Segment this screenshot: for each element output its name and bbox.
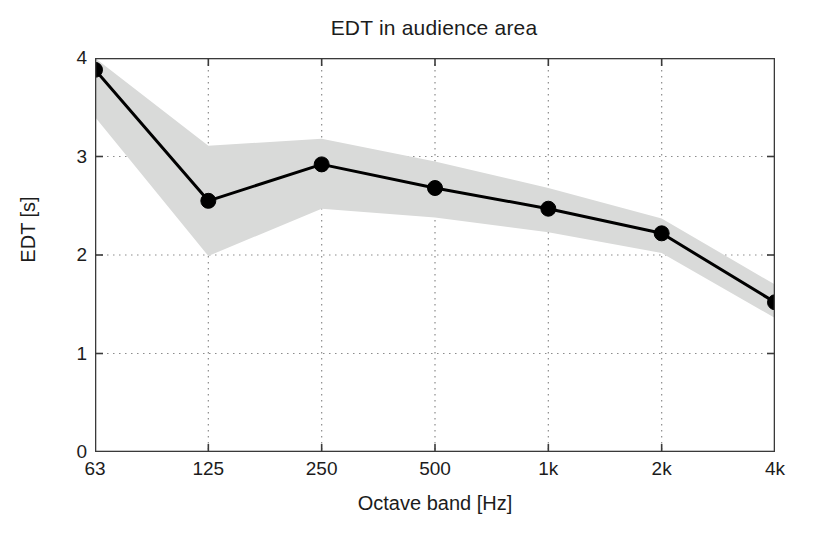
chart-title: EDT in audience area — [0, 16, 818, 40]
data-point-marker — [428, 181, 443, 196]
x-tick-label: 250 — [306, 458, 338, 480]
x-axis-tick-labels: 631252505001k2k4k — [95, 458, 775, 484]
y-tick-label: 2 — [76, 244, 87, 266]
x-tick-label: 4k — [765, 458, 785, 480]
data-point-marker — [541, 201, 556, 216]
y-tick-label: 1 — [76, 343, 87, 365]
y-axis-label: EDT [s] — [17, 140, 40, 320]
plot-area — [95, 58, 775, 452]
data-point-marker — [314, 157, 329, 172]
y-axis-tick-labels: 01234 — [55, 58, 87, 452]
data-point-marker — [654, 226, 669, 241]
x-tick-label: 1k — [538, 458, 558, 480]
x-tick-label: 2k — [652, 458, 672, 480]
y-tick-label: 4 — [76, 47, 87, 69]
data-point-marker — [201, 193, 216, 208]
plot-svg — [95, 58, 775, 452]
chart-figure: EDT in audience area EDT [s] 01234 63125… — [0, 0, 818, 537]
x-tick-label: 63 — [84, 458, 105, 480]
x-tick-label: 125 — [192, 458, 224, 480]
x-tick-label: 500 — [419, 458, 451, 480]
x-axis-label: Octave band [Hz] — [95, 492, 775, 515]
y-tick-label: 3 — [76, 146, 87, 168]
